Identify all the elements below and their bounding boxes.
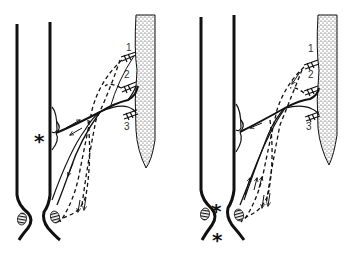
label-2: 2 bbox=[308, 69, 314, 80]
asterisk-marker-lower: * bbox=[212, 228, 223, 252]
right-panel: 1 2 3 * * bbox=[200, 15, 337, 252]
outer-wall bbox=[17, 24, 31, 240]
label-2: 2 bbox=[124, 69, 130, 80]
hatched-oval bbox=[233, 208, 245, 222]
label-1: 1 bbox=[126, 42, 132, 53]
left-panel: 1 2 3 * bbox=[17, 15, 155, 240]
dashed-fibers bbox=[241, 67, 304, 222]
stippled-structure bbox=[135, 15, 155, 168]
hatched-oval bbox=[49, 210, 61, 224]
flap bbox=[236, 104, 241, 131]
hatched-oval bbox=[200, 207, 211, 220]
dashed-fibers bbox=[58, 60, 122, 222]
label-3: 3 bbox=[124, 121, 130, 132]
nerve-fibers bbox=[236, 88, 319, 205]
hatched-oval bbox=[17, 212, 28, 225]
stippled-structure bbox=[317, 15, 337, 165]
diagram-canvas: 1 2 3 * bbox=[0, 0, 355, 255]
label-3: 3 bbox=[306, 121, 312, 132]
label-1: 1 bbox=[308, 43, 314, 54]
asterisk-marker-upper: * bbox=[211, 199, 222, 223]
flap bbox=[52, 107, 57, 133]
asterisk-marker: * bbox=[34, 129, 45, 153]
direction-arrows bbox=[245, 72, 300, 208]
